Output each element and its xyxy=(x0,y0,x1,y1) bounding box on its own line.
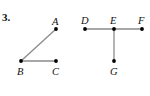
point-c xyxy=(54,59,58,63)
label-e: E xyxy=(109,15,117,26)
point-a xyxy=(54,27,58,31)
geometry-figure: 3. A B C D E F G xyxy=(0,0,150,96)
point-e xyxy=(112,27,116,31)
label-b: B xyxy=(17,66,24,77)
point-f xyxy=(140,27,144,31)
label-a: A xyxy=(51,16,59,27)
point-b xyxy=(19,59,23,63)
angle-abc-figure: A B C xyxy=(17,16,60,77)
label-g: G xyxy=(110,66,118,77)
figure-defg: D E F G xyxy=(80,15,145,77)
label-d: D xyxy=(80,15,89,26)
segment-ba xyxy=(21,29,56,61)
label-f: F xyxy=(137,15,145,26)
label-c: C xyxy=(52,66,60,77)
point-d xyxy=(83,27,87,31)
point-g xyxy=(112,59,116,63)
problem-number: 3. xyxy=(2,11,11,23)
